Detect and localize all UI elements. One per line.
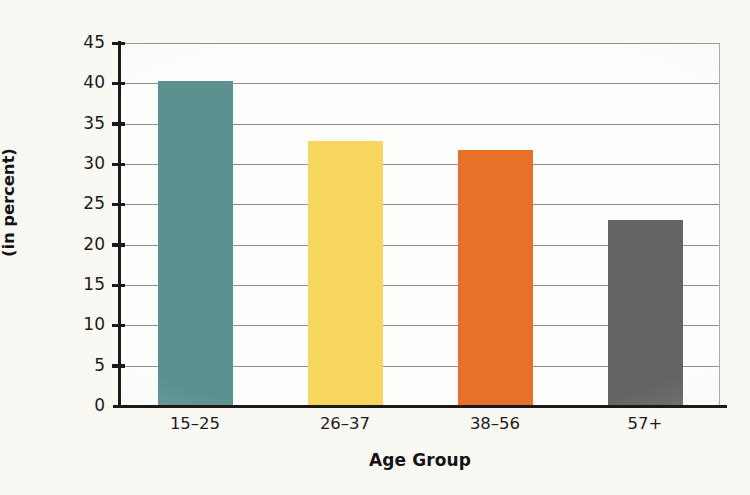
- y-axis-tick-label: 15: [33, 274, 105, 294]
- bar-chart: Rate of Volunteer Activity (in percent) …: [0, 0, 750, 495]
- y-axis-tick-label: 10: [33, 314, 105, 334]
- x-axis-tick-label: 57+: [570, 414, 720, 433]
- y-axis-title-line2: (in percent): [0, 84, 20, 322]
- x-axis-line: [113, 405, 727, 408]
- y-axis-tick-mark: [112, 82, 125, 86]
- y-axis-tick-mark: [112, 163, 125, 167]
- x-axis-tick-label: 38–56: [420, 414, 570, 433]
- y-axis-tick-mark: [112, 243, 125, 247]
- x-axis-tick-label: 15–25: [120, 414, 270, 433]
- y-axis-tick-mark: [112, 122, 125, 126]
- x-axis-tick-label: 26–37: [270, 414, 420, 433]
- y-axis-tick-mark: [112, 42, 125, 46]
- y-axis-tick-mark: [112, 203, 125, 207]
- y-axis-tick-label: 5: [33, 355, 105, 375]
- y-axis-tick-label: 25: [33, 193, 105, 213]
- y-axis-tick-label: 35: [33, 113, 105, 133]
- y-axis-tick-mark: [112, 364, 125, 368]
- y-axis-tick-mark: [112, 324, 125, 328]
- y-axis-tick-mark: [112, 284, 125, 288]
- bar: [158, 81, 233, 406]
- y-axis-tick-label: 0: [33, 395, 105, 415]
- bar: [308, 141, 383, 406]
- y-axis-tick-label: 30: [33, 153, 105, 173]
- y-axis-tick-label: 40: [33, 72, 105, 92]
- y-axis-line: [118, 41, 121, 408]
- x-axis-title: Age Group: [120, 450, 720, 470]
- gridline: [120, 43, 719, 44]
- y-axis-tick-label: 45: [33, 32, 105, 52]
- y-axis-tick-label: 20: [33, 234, 105, 254]
- bar: [458, 150, 533, 406]
- plot-area: [120, 43, 720, 406]
- bar: [608, 220, 683, 406]
